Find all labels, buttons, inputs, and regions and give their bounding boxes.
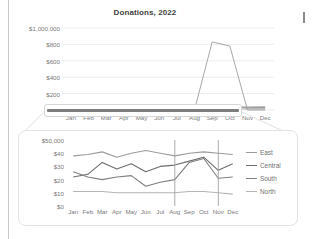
detail-x-tick: Dec	[226, 208, 241, 220]
page-left-rule	[8, 0, 9, 239]
detail-y-axis: $50,000$40$30$20$10$0	[20, 140, 64, 206]
detail-legend: EastCentralSouthNorth	[246, 146, 298, 198]
legend-label: East	[260, 149, 273, 156]
detail-x-tick: Aug	[168, 208, 183, 220]
detail-x-tick: Jul	[153, 208, 168, 220]
legend-label: Central	[260, 162, 281, 169]
detail-chart: $50,000$40$30$20$10$0 JanFebMarAprMayJun…	[18, 130, 298, 226]
overview-y-axis: $1,000,000$800$600$400$200$0	[14, 28, 60, 110]
legend-line-icon	[246, 165, 257, 166]
text-caret-icon	[303, 12, 305, 23]
legend-item-east[interactable]: East	[246, 146, 298, 159]
detail-x-tick: Jan	[66, 208, 81, 220]
overview-y-tick: $600	[46, 57, 60, 64]
detail-x-tick: Oct	[197, 208, 212, 220]
overview-y-tick: $1,000,000	[29, 25, 60, 32]
overview-y-tick: $800	[46, 41, 60, 48]
detail-y-tick: $10	[54, 189, 64, 196]
legend-label: South	[260, 175, 277, 182]
legend-item-central[interactable]: Central	[246, 159, 298, 172]
page-canvas: Donations, 2022 $1,000,000$800$600$400$2…	[0, 0, 313, 239]
legend-label: North	[260, 188, 276, 195]
legend-line-icon	[246, 178, 257, 179]
detail-x-tick: Feb	[81, 208, 96, 220]
detail-series-svg	[66, 140, 240, 206]
legend-line-icon	[246, 191, 257, 192]
detail-y-tick: $30	[54, 163, 64, 170]
detail-y-tick: $20	[54, 176, 64, 183]
overview-series-svg	[62, 28, 274, 110]
detail-x-tick: Nov	[211, 208, 226, 220]
overview-plot-area	[62, 28, 274, 110]
overview-y-tick: $400	[46, 74, 60, 81]
legend-line-icon	[246, 152, 257, 153]
detail-plot-area	[66, 140, 240, 206]
detail-x-tick: Mar	[95, 208, 110, 220]
detail-x-tick: May	[124, 208, 139, 220]
legend-item-south[interactable]: South	[246, 172, 298, 185]
detail-y-tick: $0	[57, 203, 64, 210]
overview-y-tick: $200	[46, 90, 60, 97]
detail-x-axis: JanFebMarAprMayJunJulAugSepOctNovDec	[66, 208, 240, 220]
legend-item-north[interactable]: North	[246, 185, 298, 198]
detail-x-tick: Jun	[139, 208, 154, 220]
detail-x-tick: Apr	[110, 208, 125, 220]
detail-x-tick: Sep	[182, 208, 197, 220]
detail-y-tick: $40	[54, 150, 64, 157]
chart-title: Donations, 2022	[14, 8, 276, 17]
magnifier-callout: $50,000$40$30$20$10$0 JanFebMarAprMayJun…	[10, 112, 306, 230]
detail-y-tick: $50,000	[42, 137, 64, 144]
